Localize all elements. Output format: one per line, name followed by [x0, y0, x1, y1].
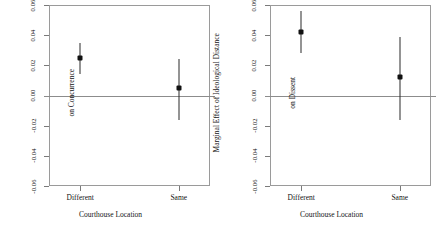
y-axis-tick-label: 0.06 — [22, 0, 44, 10]
y-axis-tick-label-text: 0.00 — [250, 90, 257, 102]
y-axis-title: Marginal Effect of Ideological Distanceo… — [223, 0, 243, 186]
estimate-point — [397, 75, 402, 80]
estimate-point — [78, 55, 83, 60]
x-axis-title: Courthouse Location — [0, 210, 221, 219]
y-axis-tick-label-text: -0.04 — [250, 149, 257, 163]
y-axis-tick-label: 0.00 — [243, 91, 265, 101]
x-axis-tick — [179, 186, 180, 191]
y-axis-tick-label: 0.06 — [243, 0, 265, 10]
y-axis-tick-label-text: 0.06 — [29, 0, 36, 11]
y-axis-tick-label-text: 0.02 — [250, 59, 257, 71]
x-axis-tick — [301, 186, 302, 191]
y-axis-tick-label-text: -0.02 — [250, 119, 257, 133]
y-axis-tick-label-text: 0.04 — [29, 29, 36, 41]
y-axis-tick-label: 0.00 — [22, 91, 44, 101]
y-axis-tick — [265, 65, 270, 66]
y-axis-tick-label-text: 0.00 — [29, 90, 36, 102]
x-axis-tick-label: Same — [391, 193, 408, 202]
x-axis-tick — [400, 186, 401, 191]
y-axis-tick — [265, 186, 270, 187]
y-axis-tick-label: 0.04 — [243, 30, 265, 40]
y-axis-tick-label-text: 0.02 — [29, 59, 36, 71]
y-axis-tick — [44, 156, 49, 157]
y-axis-tick-label-text: 0.04 — [250, 29, 257, 41]
x-axis-tick-label: Same — [170, 193, 187, 202]
y-axis-tick-label: 0.02 — [243, 60, 265, 70]
y-axis-tick-label: -0.06 — [22, 181, 44, 191]
panel-dissent: 0.060.040.020.00-0.02-0.04-0.06Different… — [221, 0, 442, 232]
x-axis-tick-label: Different — [288, 193, 315, 202]
y-axis-tick — [265, 5, 270, 6]
y-axis-tick-label: -0.04 — [243, 151, 265, 161]
y-axis-tick-label: -0.02 — [243, 121, 265, 131]
figure-coefficient-plots: 0.060.040.020.00-0.02-0.04-0.06Different… — [0, 0, 443, 232]
x-axis-tick — [80, 186, 81, 191]
y-axis-title-line: on Dissent — [289, 77, 297, 109]
x-axis-title: Courthouse Location — [221, 210, 442, 219]
y-axis-tick — [44, 35, 49, 36]
y-axis-title-line: Marginal Effect of Ideological Distance — [213, 33, 221, 152]
x-axis-tick-label: Different — [67, 193, 94, 202]
y-axis-tick-label-text: -0.04 — [29, 149, 36, 163]
y-axis-tick — [265, 126, 270, 127]
y-axis-title-line: on Concurrence — [68, 69, 76, 117]
y-axis-tick — [265, 156, 270, 157]
y-axis-tick-label-text: -0.06 — [29, 179, 36, 193]
y-axis-tick-label: -0.06 — [243, 181, 265, 191]
y-axis-tick-label-text: 0.06 — [250, 0, 257, 11]
y-axis-tick — [44, 186, 49, 187]
panel-concurrence: 0.060.040.020.00-0.02-0.04-0.06Different… — [0, 0, 221, 232]
y-axis-tick — [44, 126, 49, 127]
y-axis-title: Marginal Effect of Ideological Distanceo… — [2, 0, 22, 186]
y-axis-tick-label-text: -0.02 — [29, 119, 36, 133]
y-axis-tick — [265, 35, 270, 36]
y-axis-tick — [44, 65, 49, 66]
y-axis-tick-label: -0.02 — [22, 121, 44, 131]
y-axis-tick-label-text: -0.06 — [250, 179, 257, 193]
y-axis-tick-label: 0.04 — [22, 30, 44, 40]
estimate-point — [299, 30, 304, 35]
estimate-point — [176, 85, 181, 90]
y-axis-tick — [44, 5, 49, 6]
y-axis-tick-label: -0.04 — [22, 151, 44, 161]
y-axis-tick-label: 0.02 — [22, 60, 44, 70]
